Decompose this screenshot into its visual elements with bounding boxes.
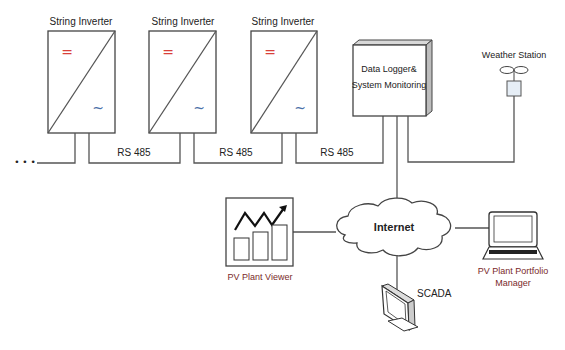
laptop-icon <box>483 212 543 259</box>
weather-station-label: Weather Station <box>482 50 546 60</box>
ac-symbol-icon: ~ <box>92 100 104 116</box>
rs485-label: RS 485 <box>320 147 354 158</box>
inverter-label: String Inverter <box>152 16 215 27</box>
data-logger-label-2: System Monitoring <box>352 80 427 90</box>
ac-symbol-icon: ~ <box>294 100 306 116</box>
dc-symbol-icon: = <box>61 44 73 60</box>
continuation-dots: • • • <box>14 157 36 167</box>
data-logger-label-1: Data Logger& <box>361 64 417 74</box>
scada-label: SCADA <box>417 288 452 299</box>
pv-monitoring-diagram: String Inverter = ~ String Inverter = ~ … <box>0 0 565 350</box>
string-inverter-3: String Inverter = ~ <box>251 16 317 133</box>
pv-plant-viewer-label: PV Plant Viewer <box>228 272 293 282</box>
anemometer-icon <box>500 67 528 97</box>
inverter-label: String Inverter <box>50 16 113 27</box>
internet-cloud: Internet <box>337 198 451 256</box>
rs485-label: RS 485 <box>219 147 253 158</box>
rs485-label: RS 485 <box>117 147 151 158</box>
portfolio-manager-label-1: PV Plant Portfolio <box>478 266 549 276</box>
string-inverter-1: String Inverter = ~ <box>48 16 115 133</box>
inverter-label: String Inverter <box>252 16 315 27</box>
pv-plant-viewer: PV Plant Viewer <box>226 198 293 282</box>
string-inverter-2: String Inverter = ~ <box>149 16 216 133</box>
portfolio-manager-label-2: Manager <box>495 278 531 288</box>
data-logger: Data Logger& System Monitoring <box>352 40 432 116</box>
dc-symbol-icon: = <box>162 44 174 60</box>
scada: SCADA <box>382 284 452 331</box>
weather-station: Weather Station <box>482 50 546 96</box>
dc-symbol-icon: = <box>264 44 276 60</box>
internet-label: Internet <box>374 221 415 233</box>
monitor-icon <box>382 284 418 331</box>
ac-symbol-icon: ~ <box>193 100 205 116</box>
pv-plant-portfolio-manager: PV Plant Portfolio Manager <box>478 212 549 288</box>
